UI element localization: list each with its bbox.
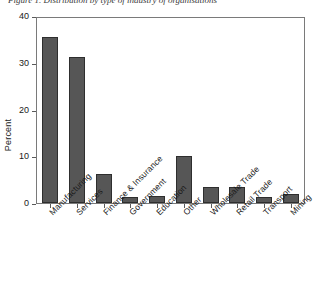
bar-series — [37, 18, 304, 203]
y-tick: 40 — [0, 17, 36, 18]
y-tick-mark — [32, 17, 36, 18]
figure-caption: Figure 1. Distribution by type of indust… — [8, 0, 318, 6]
y-tick-label: 30 — [19, 58, 29, 68]
y-tick-label: 0 — [24, 198, 29, 208]
y-tick-mark — [32, 204, 36, 205]
y-tick-mark — [32, 111, 36, 112]
bar — [42, 37, 58, 204]
y-tick: 10 — [0, 157, 36, 158]
y-tick-label: 40 — [19, 11, 29, 21]
y-axis-label: Percent — [3, 105, 13, 165]
y-tick-label: 10 — [19, 151, 29, 161]
y-tick-mark — [32, 157, 36, 158]
y-tick: 30 — [0, 64, 36, 65]
figure-container: Figure 1. Distribution by type of indust… — [0, 0, 324, 283]
y-tick: 20 — [0, 111, 36, 112]
y-tick: 0 — [0, 204, 36, 205]
y-tick-mark — [32, 64, 36, 65]
y-tick-label: 20 — [19, 105, 29, 115]
